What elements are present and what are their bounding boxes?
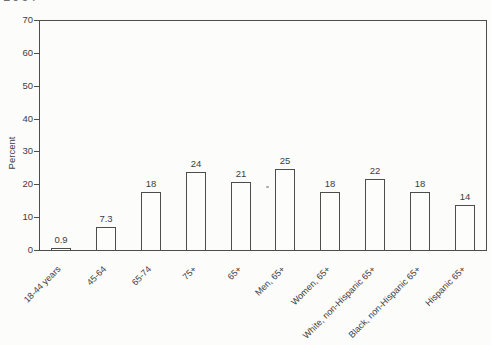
x-tick-label-text: 75+ (180, 264, 198, 282)
y-tick-mark (34, 86, 39, 87)
bar-9 (410, 192, 430, 251)
y-tick-label: 40 (7, 114, 33, 124)
bar-value-label: 25 (263, 156, 307, 166)
chart-canvas: 1997 010203040506070 Percent 0.97.318242… (0, 0, 491, 345)
y-tick-label: 50 (7, 81, 33, 91)
y-tick-label: 10 (7, 212, 33, 222)
bar-7 (320, 192, 340, 251)
x-tick-label-text: 65+ (225, 264, 243, 282)
y-tick-mark (34, 53, 39, 54)
y-tick-mark (34, 20, 39, 21)
scan-artifact-dot (266, 186, 269, 188)
bar-value-label: 0.9 (39, 235, 83, 245)
x-tick-label-text: Hispanic 65+ (423, 264, 467, 308)
bar-1 (51, 248, 71, 251)
bar-8 (365, 179, 385, 251)
bar-5 (231, 182, 251, 251)
bar-value-label: 7.3 (84, 214, 128, 224)
bar-value-label: 18 (308, 179, 352, 189)
bar-3 (141, 192, 161, 251)
y-tick-mark (34, 250, 39, 251)
y-tick-mark (34, 151, 39, 152)
bar-2 (96, 227, 116, 251)
bar-value-label: 21 (219, 169, 263, 179)
y-tick-label: 0 (7, 245, 33, 255)
y-tick-mark (34, 184, 39, 185)
bar-value-label: 14 (443, 192, 487, 202)
bar-value-label: 18 (129, 179, 173, 189)
bar-4 (186, 172, 206, 251)
x-tick-label-text: 18-44 years (22, 264, 63, 305)
bar-value-label: 18 (398, 179, 442, 189)
x-tick-label-text: Women, 65+ (289, 264, 332, 307)
y-tick-mark (34, 119, 39, 120)
x-tick-label-text: 45-64 (85, 264, 108, 287)
y-tick-mark (34, 217, 39, 218)
bar-value-label: 22 (353, 166, 397, 176)
y-tick-label: 70 (7, 15, 33, 25)
x-tick-label-text: Men, 65+ (253, 264, 287, 298)
bar-10 (455, 205, 475, 251)
y-tick-label: 20 (7, 179, 33, 189)
bar-6 (275, 169, 295, 251)
bar-chart: 010203040506070 Percent 0.97.31824212518… (0, 0, 491, 345)
y-tick-label: 60 (7, 48, 33, 58)
x-tick-label-text: 65-74 (130, 264, 153, 287)
y-axis-title-text: Percent (6, 137, 17, 170)
bar-value-label: 24 (174, 159, 218, 169)
